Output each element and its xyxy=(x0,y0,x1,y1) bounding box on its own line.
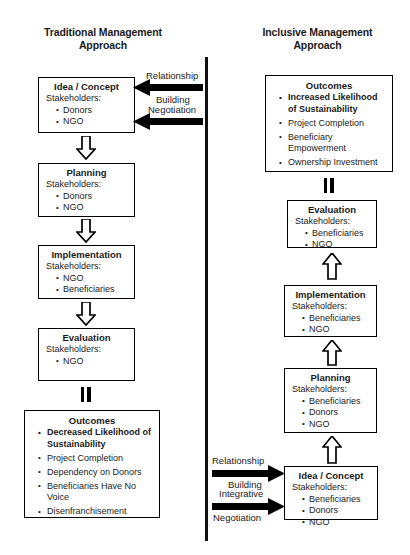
list-item: Beneficiaries xyxy=(56,284,129,296)
list-item: Project Completion xyxy=(38,453,154,465)
inclusive-outcomes-box: Outcomes Increased Likelihood of Sustain… xyxy=(265,75,393,172)
traditional-planning-stakeholders-list: Donors NGO xyxy=(44,191,129,214)
list-item: NGO xyxy=(56,273,129,285)
title-right-line1: Inclusive Management xyxy=(230,26,405,39)
inclusive-implementation-stakeholders-label: Stakeholders: xyxy=(290,301,371,313)
inclusive-equals-sign xyxy=(324,178,335,193)
traditional-implementation-stakeholders-label: Stakeholders: xyxy=(44,261,129,273)
list-item: NGO xyxy=(56,116,129,128)
list-item: Beneficiaries xyxy=(302,396,371,408)
list-item: NGO xyxy=(302,517,372,529)
traditional-implementation-stakeholders-list: NGO Beneficiaries xyxy=(44,273,129,296)
traditional-outcomes-title: Outcomes xyxy=(30,415,154,427)
traditional-outcomes-box: Outcomes Decreased Likelihood of Sustain… xyxy=(24,410,160,518)
list-item: Increased Likelihood of Sustainability xyxy=(279,92,387,115)
inclusive-implementation-stakeholders-list: Beneficiaries NGO xyxy=(290,313,371,336)
traditional-evaluation-stakeholders-list: NGO xyxy=(44,356,129,368)
traditional-flow-arrow-planning-to-implementation xyxy=(76,219,96,243)
list-item: Beneficiaries xyxy=(305,228,371,240)
traditional-equals-sign xyxy=(81,387,92,402)
inclusive-flow-arrow-planning-to-implementation xyxy=(322,340,342,366)
traditional-planning-stakeholders-label: Stakeholders: xyxy=(44,179,129,191)
traditional-evaluation-box: Evaluation Stakeholders: NGO xyxy=(38,328,135,381)
traditional-implementation-box: Implementation Stakeholders: NGO Benefic… xyxy=(38,245,135,299)
traditional-arrow-label-negotiation: Negotiation xyxy=(148,104,196,115)
traditional-outcomes-list: Decreased Likelihood of Sustainability P… xyxy=(30,427,154,518)
inclusive-planning-box: Planning Stakeholders: Beneficiaries Don… xyxy=(284,368,377,433)
page-title-traditional: Traditional Management Approach xyxy=(8,26,198,52)
inclusive-implementation-box: Implementation Stakeholders: Beneficiari… xyxy=(284,285,377,337)
list-item: Disenfranchisement xyxy=(38,506,154,518)
list-item: Beneficiary Empowerment xyxy=(279,132,387,155)
inclusive-idea-box: Idea / Concept Stakeholders: Beneficiari… xyxy=(284,466,378,520)
inclusive-evaluation-stakeholders-list: Beneficiaries NGO xyxy=(293,228,371,251)
title-left-line1: Traditional Management xyxy=(8,26,198,39)
inclusive-arrow-label-relationship: Relationship xyxy=(212,455,264,466)
page-title-inclusive: Inclusive Management Approach xyxy=(230,26,405,52)
list-item: NGO xyxy=(56,356,129,368)
inclusive-arrow-label-negotiation: Negotiation xyxy=(213,512,261,523)
title-left-line2: Approach xyxy=(8,39,198,52)
inclusive-planning-stakeholders-list: Beneficiaries Donors NGO xyxy=(290,396,371,431)
traditional-planning-box: Planning Stakeholders: Donors NGO xyxy=(38,163,135,217)
inclusive-evaluation-box: Evaluation Stakeholders: Beneficiaries N… xyxy=(287,200,377,248)
list-item: NGO xyxy=(305,239,371,251)
list-item: NGO xyxy=(302,419,371,431)
inclusive-planning-stakeholders-label: Stakeholders: xyxy=(290,384,371,396)
inclusive-outcomes-list: Increased Likelihood of Sustainability P… xyxy=(271,92,387,169)
list-item: Ownership Investment xyxy=(279,157,387,169)
inclusive-arrow-label-integrative: Integrative xyxy=(219,488,263,499)
traditional-evaluation-stakeholders-label: Stakeholders: xyxy=(44,344,129,356)
inclusive-evaluation-title: Evaluation xyxy=(293,204,371,216)
traditional-idea-title: Idea / Concept xyxy=(44,81,129,93)
column-divider xyxy=(205,57,208,541)
traditional-idea-box: Idea / Concept Stakeholders: Donors NGO xyxy=(38,77,135,133)
inclusive-idea-stakeholders-list: Beneficiaries Donors NGO xyxy=(290,494,372,529)
list-item: NGO xyxy=(302,324,371,336)
inclusive-idea-stakeholders-label: Stakeholders: xyxy=(290,482,372,494)
list-item: NGO xyxy=(56,202,129,214)
traditional-flow-arrow-idea-to-planning xyxy=(76,136,96,160)
list-item: Dependency on Donors xyxy=(38,467,154,479)
traditional-idea-stakeholders-label: Stakeholders: xyxy=(44,93,129,105)
inclusive-flow-arrow-idea-to-planning xyxy=(322,436,342,464)
list-item: Project Completion xyxy=(279,118,387,130)
title-right-line2: Approach xyxy=(230,39,405,52)
list-item: Decreased Likelihood of Sustainability xyxy=(38,427,154,450)
list-item: Donors xyxy=(302,505,372,517)
traditional-idea-stakeholders-list: Donors NGO xyxy=(44,105,129,128)
inclusive-implementation-title: Implementation xyxy=(290,289,371,301)
list-item: Beneficiaries xyxy=(302,494,372,506)
traditional-implementation-title: Implementation xyxy=(44,249,129,261)
traditional-flow-arrow-implementation-to-evaluation xyxy=(76,302,96,326)
traditional-evaluation-title: Evaluation xyxy=(44,332,129,344)
inclusive-idea-title: Idea / Concept xyxy=(290,470,372,482)
traditional-planning-title: Planning xyxy=(44,167,129,179)
list-item: Beneficiaries Have No Voice xyxy=(38,481,154,504)
inclusive-outcomes-title: Outcomes xyxy=(271,80,387,92)
diagram-canvas: Traditional Management Approach Inclusiv… xyxy=(0,0,410,555)
list-item: Beneficiaries xyxy=(302,313,371,325)
inclusive-flow-arrow-implementation-to-evaluation xyxy=(322,253,342,280)
list-item: Donors xyxy=(302,407,371,419)
list-item: Donors xyxy=(56,105,129,117)
traditional-arrow-label-relationship: Relationship xyxy=(146,70,198,81)
list-item: Donors xyxy=(56,191,129,203)
inclusive-evaluation-stakeholders-label: Stakeholders: xyxy=(293,216,371,228)
traditional-negotiation-arrow xyxy=(133,113,203,130)
inclusive-planning-title: Planning xyxy=(290,372,371,384)
